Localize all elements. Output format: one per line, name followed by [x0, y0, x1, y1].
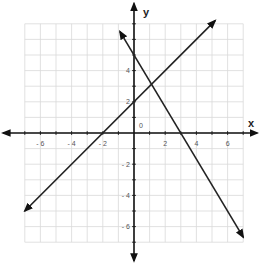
coordinate-plane: - 6- 4- 2246- 6- 4- 2240xy — [0, 0, 263, 269]
line-2 — [120, 32, 243, 237]
x-tick-label: 6 — [226, 140, 230, 147]
x-tick-label: - 4 — [68, 140, 76, 147]
y-axis-label: y — [143, 6, 150, 18]
y-tick-label: 4 — [126, 67, 130, 74]
y-tick-label: - 2 — [122, 161, 130, 168]
x-axis-label: x — [248, 117, 255, 129]
y-tick-label: - 6 — [122, 223, 130, 230]
x-tick-label: - 2 — [99, 140, 107, 147]
y-tick-label: - 4 — [122, 192, 130, 199]
origin-label: 0 — [139, 122, 143, 129]
x-tick-label: 2 — [163, 140, 167, 147]
x-tick-label: 4 — [194, 140, 198, 147]
x-tick-label: - 6 — [36, 140, 44, 147]
y-tick-label: 2 — [126, 98, 130, 105]
line-1 — [25, 21, 215, 211]
